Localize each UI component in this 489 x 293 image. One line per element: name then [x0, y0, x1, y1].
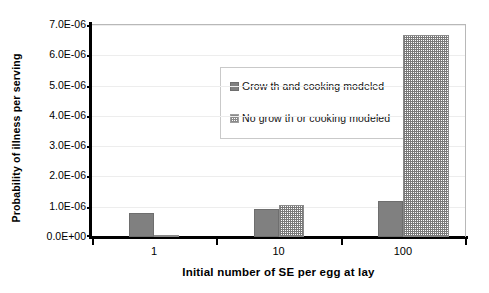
x-axis-title: Initial number of SE per egg at lay — [92, 266, 465, 278]
legend-item-no-growth-or-cooking-modeled: No grow th or cooking modeled — [230, 112, 390, 124]
y-tick-label-2: 2.0E-06 — [30, 169, 86, 181]
chart-figure: Probability of illness per serving 0.0E+… — [0, 0, 489, 293]
bar-10-series-1 — [279, 205, 304, 237]
x-tick-mark-0 — [92, 239, 94, 245]
y-axis-title-text: Probability of illness per serving — [9, 53, 21, 222]
y-axis-title: Probability of illness per serving — [2, 18, 28, 258]
x-tick-label-1: 1 — [151, 245, 157, 257]
bar-10-series-0 — [254, 209, 279, 237]
chart-legend: Grow th and cooking modeled No grow th o… — [220, 67, 405, 139]
gridline-7 — [92, 25, 465, 26]
bar-1-series-0 — [129, 213, 154, 237]
legend-label-1: No grow th or cooking modeled — [242, 112, 390, 124]
y-axis-tick-labels: 0.0E+001.0E-062.0E-063.0E-064.0E-065.0E-… — [28, 0, 86, 293]
plot-area: Grow th and cooking modeled No grow th o… — [92, 24, 466, 237]
y-tick-label-4: 4.0E-06 — [30, 109, 86, 121]
bar-100-series-1 — [403, 35, 449, 237]
y-tick-label-7: 7.0E-06 — [30, 18, 86, 30]
x-tick-label-100: 100 — [394, 245, 412, 257]
bar-1-series-1 — [154, 235, 179, 237]
y-tick-label-0: 0.0E+00 — [30, 230, 86, 242]
x-tick-label-10: 10 — [272, 245, 284, 257]
x-tick-mark-end — [465, 239, 467, 245]
x-tick-mark-2 — [341, 239, 343, 245]
y-tick-label-3: 3.0E-06 — [30, 139, 86, 151]
y-tick-label-6: 6.0E-06 — [30, 48, 86, 60]
x-tick-mark-1 — [216, 239, 218, 245]
y-tick-label-5: 5.0E-06 — [30, 79, 86, 91]
y-tick-label-1: 1.0E-06 — [30, 200, 86, 212]
y-tick-mark-0 — [87, 235, 92, 237]
bar-100-series-0 — [378, 201, 403, 237]
legend-swatch-hatch-icon — [230, 114, 239, 123]
